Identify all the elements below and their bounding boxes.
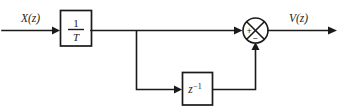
input-signal-label: X(z) — [20, 12, 40, 25]
output-arrow-icon — [328, 27, 337, 35]
input-arrow-icon — [52, 27, 60, 35]
summer-positive-sign: + — [247, 26, 252, 36]
branch-to-delay-wire — [137, 31, 183, 94]
summing-junction: + − — [243, 18, 268, 43]
output-signal-label: V(z) — [289, 12, 308, 25]
delay-input-arrow-icon — [174, 86, 182, 94]
delay-block: z−1 — [183, 73, 213, 106]
delay-block-exponent: −1 — [193, 82, 202, 91]
gain-block: 1 T — [61, 11, 92, 47]
gain-block-numerator: 1 — [73, 17, 79, 29]
summer-plus-arrow-icon — [234, 27, 243, 35]
gain-block-denominator: T — [73, 31, 80, 43]
summer-negative-sign: − — [253, 33, 258, 43]
gain-to-summer-wire — [91, 27, 243, 35]
input-wire — [2, 27, 60, 35]
block-diagram-svg: 1 T z−1 + − — [0, 0, 340, 111]
delay-to-summer-wire — [213, 42, 260, 90]
block-diagram-canvas: 1 T z−1 + − — [0, 0, 340, 111]
output-wire — [268, 27, 337, 35]
